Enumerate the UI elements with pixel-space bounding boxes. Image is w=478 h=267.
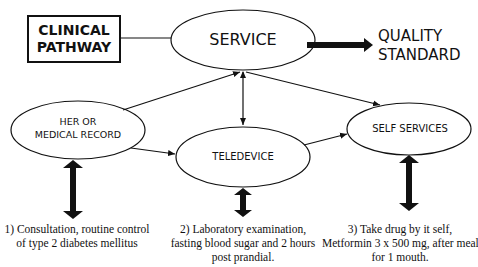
caption-3-line1: 3) Take drug by it self,	[322, 222, 478, 236]
thick-arrow-quality-icon	[307, 38, 373, 52]
caption-2-line1: 2) Laboratory examination,	[168, 222, 318, 236]
teledevice-label: TELEDEVICE	[183, 150, 303, 163]
quality-standard-label: QUALITY STANDARD	[378, 27, 461, 65]
quality-line2: STANDARD	[378, 46, 461, 65]
caption-1-line1: 1) Consultation, routine control	[3, 222, 151, 236]
thick-double-arrow-2-icon	[234, 188, 252, 217]
caption-3-line3: for 1 mouth.	[322, 250, 478, 264]
clinical-pathway-diagram: CLINICAL PATHWAY SERVICE QUALITY STANDAR…	[0, 0, 478, 267]
her-line1: HER OR	[18, 115, 138, 128]
her-label: HER OR MEDICAL RECORD	[18, 115, 138, 141]
clinical-pathway-box: CLINICAL PATHWAY	[27, 15, 121, 63]
arrow-her-teledevice	[131, 148, 175, 154]
clinical-pathway-line2: PATHWAY	[37, 39, 111, 56]
service-label: SERVICE	[183, 30, 303, 50]
arrow-teledevice-self	[304, 134, 347, 145]
self-services-label: SELF SERVICES	[350, 122, 470, 135]
quality-line1: QUALITY	[378, 27, 461, 46]
clinical-pathway-line1: CLINICAL	[38, 22, 109, 39]
caption-2-line2: fasting blood sugar and 2 hours	[168, 236, 318, 250]
caption-2-line3: post prandial.	[168, 250, 318, 264]
her-line2: MEDICAL RECORD	[18, 128, 138, 141]
caption-1: 1) Consultation, routine control of type…	[3, 222, 151, 250]
caption-3: 3) Take drug by it self, Metformin 3 x 5…	[322, 222, 478, 264]
thick-double-arrow-1-icon	[63, 160, 83, 219]
thick-double-arrow-3-icon	[399, 155, 419, 211]
caption-3-line2: Metformin 3 x 500 mg, after meal	[322, 236, 478, 250]
caption-2: 2) Laboratory examination, fasting blood…	[168, 222, 318, 264]
arrow-service-self	[246, 72, 380, 105]
arrow-her-service	[123, 72, 240, 110]
caption-1-line2: of type 2 diabetes mellitus	[3, 236, 151, 250]
